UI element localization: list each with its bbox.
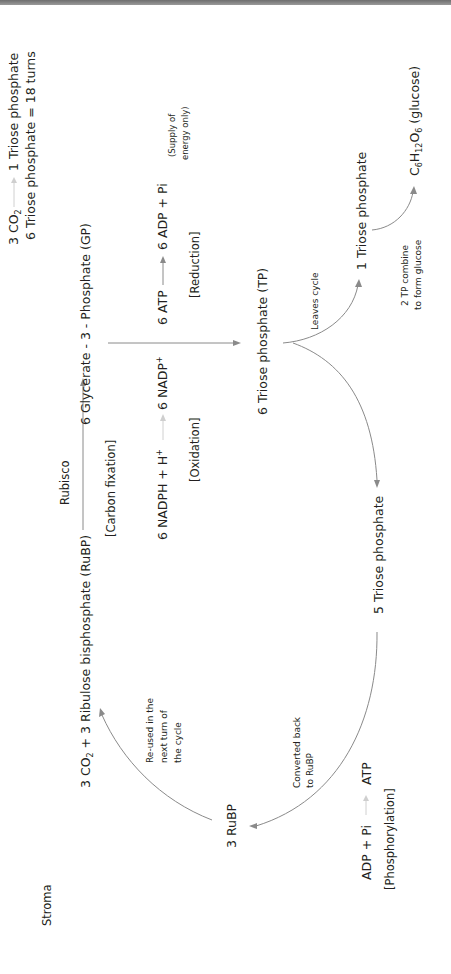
leaves-cycle-label: Leaves cycle [310,272,320,330]
leaves-cycle-curve [283,285,358,343]
reuse-note-line-3: the cycle [173,722,183,763]
nadp-label: 6 NADP+ [155,356,170,410]
to-glucose-curve [372,192,413,230]
nadph-label: 6 NADPH + H+ [155,449,170,540]
five-triose-label: 5 Triose phosphate [371,495,386,614]
converted-note-line-1: Converted back [292,716,302,788]
summary-line-2: 6 Triose phosphate = 18 turns [23,51,38,240]
phosphorylation-label: [Phosphorylation] [383,788,397,890]
summary-co2: 3 CO [6,214,21,245]
to-five-tp-arrow-head-icon [374,480,380,488]
to-rubp-arrow-head-icon [249,823,257,829]
atp-arrow-head-icon [160,256,166,263]
rubp-label: 3 RuBP [224,803,239,848]
phos-adp-label: ADP + Pi [359,825,374,880]
reduction-label: [Reduction] [188,232,202,298]
reuse-note-line-2: next turn of [159,709,169,763]
gp-to-tp-arrow-head-icon [233,340,241,346]
phos-atp-label: ATP [359,762,374,785]
summary-line-1: 3 CO2 1 Triose phosphate [6,52,23,245]
phos-arrow-head-icon [363,795,369,801]
fixation-reactants: 3 CO2 + 3 Ribulose bisphosphate (RuBP) [78,535,95,788]
calvin-cycle-diagram: 3 CO2 1 Triose phosphate 6 Triose phosph… [0,0,451,974]
energy-note-line-2: energy only) [180,106,190,160]
combine-note-line-2: to form glucose [413,239,423,310]
stroma-label: Stroma [40,884,54,926]
summary-triose: 1 Triose phosphate [6,52,21,171]
gp-label: 6 Glycerate - 3 - Phosphate (GP) [78,223,93,425]
energy-note-line-1: (Supply of [167,113,177,157]
reuse-note-line-1: Re-used in the [145,698,155,763]
carbon-fixation-label: [Carbon fixation] [104,440,118,537]
combine-note-line-1: 2 TP combine [400,244,410,306]
to-five-tp-curve [293,343,377,480]
one-triose-label: 1 Triose phosphate [354,151,369,270]
adp-label: 6 ADP + Pi [155,183,170,250]
converted-note-line-2: to RuBP [305,752,315,788]
to-rubp-curve [256,632,377,826]
oxidation-label: [Oxidation] [188,418,202,482]
summary-arrow-head-icon [11,177,17,183]
atp-label: 6 ATP [155,290,170,325]
rubisco-label: Rubisco [58,460,72,505]
svg-text:3 CO2: 3 CO2 [6,209,23,245]
triose-phosphate-label: 6 Triose phosphate (TP) [255,268,270,415]
reuse-curve [102,715,212,820]
nadph-arrow-head-icon [160,414,166,421]
leaves-cycle-arrow-head-icon [355,279,362,287]
glucose-label: C6H12O6 (glucose) [407,66,424,176]
to-glucose-arrow-head-icon [410,186,417,194]
